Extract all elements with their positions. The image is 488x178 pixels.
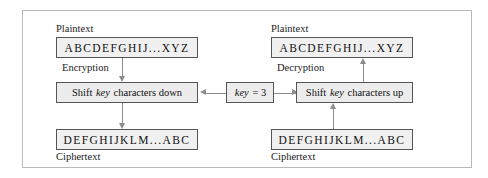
left-plaintext-value: ABCDEFGHIJ...XYZ <box>65 42 190 54</box>
left-ciphertext-value: DEFGHIJKLM...ABC <box>64 134 191 146</box>
decryption-operation-box: Shift key characters up <box>296 82 413 103</box>
right-arrow-decrypt-to-plaintext-line <box>363 64 364 82</box>
right-plaintext-value: ABCDEFGHIJ...XYZ <box>280 42 405 54</box>
decryption-prefix: Shift <box>306 87 329 98</box>
right-arrow-ciphertext-to-decrypt-head <box>330 103 336 109</box>
key-emphasis: key <box>234 87 250 98</box>
right-plaintext-box: ABCDEFGHIJ...XYZ <box>271 37 413 58</box>
right-plaintext-label: Plaintext <box>271 23 308 34</box>
left-plaintext-label: Plaintext <box>56 23 93 34</box>
right-arrow-decrypt-to-plaintext-head <box>360 58 366 64</box>
key-equals-value: = 3 <box>250 87 266 98</box>
right-ciphertext-label: Ciphertext <box>271 151 315 162</box>
right-ciphertext-box: DEFGHIJKLM...ABC <box>271 129 413 150</box>
key-to-encrypt-arrow-line <box>204 93 226 94</box>
left-arrow-plaintext-to-encrypt-line <box>122 58 123 78</box>
right-ciphertext-value: DEFGHIJKLM...ABC <box>279 134 406 146</box>
key-to-encrypt-arrow-head <box>200 89 206 95</box>
encryption-label: Encryption <box>62 62 109 73</box>
key-text: key = 3 <box>234 87 266 98</box>
decryption-label: Decryption <box>277 62 324 73</box>
encryption-operation-box: Shift key characters down <box>56 82 198 103</box>
key-box: key = 3 <box>226 82 274 103</box>
decryption-operation-text: Shift key characters up <box>306 87 403 98</box>
decryption-emphasis: key <box>329 87 345 98</box>
left-arrow-encrypt-to-ciphertext-line <box>122 103 123 125</box>
left-plaintext-box: ABCDEFGHIJ...XYZ <box>56 37 198 58</box>
decryption-suffix: characters up <box>345 87 403 98</box>
encryption-emphasis: key <box>95 87 111 98</box>
right-arrow-ciphertext-to-decrypt-line <box>333 109 334 129</box>
figure-frame: Plaintext ABCDEFGHIJ...XYZ Encryption Sh… <box>22 10 472 168</box>
encryption-prefix: Shift <box>72 87 95 98</box>
encryption-suffix: characters down <box>111 87 182 98</box>
encryption-operation-text: Shift key characters down <box>72 87 182 98</box>
left-ciphertext-box: DEFGHIJKLM...ABC <box>56 129 198 150</box>
left-ciphertext-label: Ciphertext <box>56 151 100 162</box>
